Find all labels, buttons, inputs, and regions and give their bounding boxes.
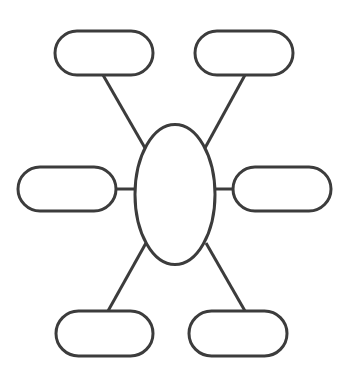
connector-bottom-right <box>206 243 245 311</box>
center-node <box>135 125 215 265</box>
branch-box-middle-right <box>233 167 331 211</box>
branch-box-top-left <box>55 31 153 75</box>
branch-box-middle-left <box>18 167 116 211</box>
branch-node-middle-left <box>18 167 116 211</box>
branch-node-bottom-left <box>56 311 153 356</box>
branch-node-middle-right <box>233 167 331 211</box>
branch-node-top-right <box>195 31 293 75</box>
center-ellipse <box>135 125 215 265</box>
connector-top-right <box>205 75 245 148</box>
branch-node-top-left <box>55 31 153 75</box>
spider-diagram <box>0 0 346 378</box>
branch-box-bottom-right <box>189 311 287 356</box>
connector-top-left <box>103 75 145 148</box>
branch-box-bottom-left <box>56 311 153 356</box>
branch-box-top-right <box>195 31 293 75</box>
connector-bottom-left <box>108 243 146 311</box>
branch-node-bottom-right <box>189 311 287 356</box>
